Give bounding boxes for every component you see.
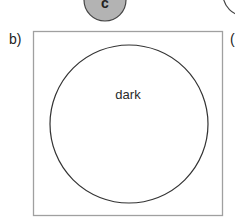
panel-b-label: b)	[9, 32, 21, 46]
dark-circle-shape	[50, 45, 208, 203]
white-circle-shape	[223, 0, 235, 16]
diagram-svg: c dark (	[0, 0, 235, 218]
panel-c-partial-label: (	[230, 31, 235, 47]
dark-circle: dark	[50, 45, 208, 203]
diagram-canvas: c dark ( b)	[0, 0, 235, 218]
gray-circle-label: c	[101, 0, 109, 11]
dark-circle-label: dark	[115, 87, 141, 102]
top-left-partial-circle: c	[84, 0, 126, 21]
top-right-partial-circle	[223, 0, 235, 16]
